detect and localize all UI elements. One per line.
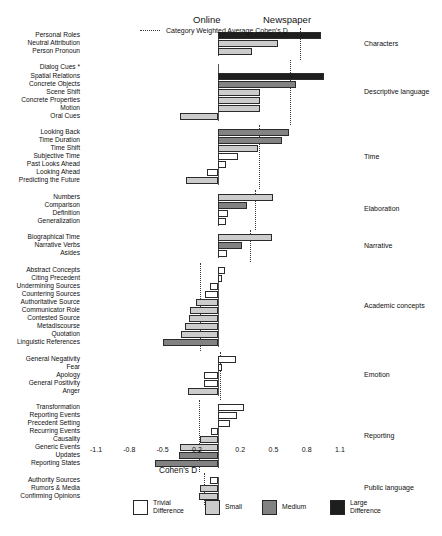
row-label: Reporting States: [0, 459, 80, 467]
x-tick-label: 1.1: [335, 446, 345, 453]
group-label: Academic concepts: [364, 302, 425, 309]
bar: [181, 331, 218, 338]
bar: [207, 169, 218, 176]
bar: [211, 428, 218, 435]
legend-swatch-small: [205, 500, 220, 515]
group-label: Reporting: [364, 432, 394, 439]
row-label: Authority Sources: [0, 476, 80, 484]
bar: [218, 404, 244, 411]
row-label: Concrete Objects: [0, 80, 80, 88]
row-label: Causality: [0, 435, 80, 443]
x-tick-label: -0.5: [157, 446, 169, 453]
row-label: Definition: [0, 209, 80, 217]
row-label: Metadiscourse: [0, 322, 80, 330]
row-label: Spatial Relations: [0, 72, 80, 80]
bar: [218, 412, 237, 419]
row-label: Biographical Time: [0, 233, 80, 241]
row-label: Contested Source: [0, 314, 80, 322]
bar: [218, 275, 222, 282]
row-label: Personal Roles: [0, 31, 80, 39]
bar: [218, 234, 272, 241]
row-label: Neutral Attribution: [0, 39, 80, 47]
bar: [218, 145, 258, 152]
legend-label-large: Large Difference: [350, 499, 381, 514]
bar: [218, 73, 324, 80]
chart-row: Linguistic References: [0, 339, 442, 347]
row-label: Apology: [0, 371, 80, 379]
bar: [218, 242, 242, 249]
bar: [188, 388, 218, 395]
column-header-online: Online: [193, 14, 220, 25]
bar: [218, 105, 260, 112]
x-tick-label: 0.2: [235, 446, 245, 453]
x-tick-label: 0.8: [302, 446, 312, 453]
bar: [189, 315, 218, 322]
bar: [163, 339, 218, 346]
group-label: Narrative: [364, 242, 392, 249]
legend-dotted-label: Category Weighted Average Cohen's D: [166, 27, 288, 34]
row-label: Citing Precedent: [0, 274, 80, 282]
row-label: Precedent Setting: [0, 419, 80, 427]
legend-item-small: Small: [205, 496, 242, 518]
row-label: Generalization: [0, 217, 80, 225]
chart-row: Person Pronoun: [0, 48, 442, 56]
bar: [218, 202, 247, 209]
dotted-line-sample: [140, 30, 160, 31]
group-label: Elaboration: [364, 205, 399, 212]
legend-label-small: Small: [225, 503, 242, 511]
legend-swatch-large: [330, 500, 345, 515]
row-label: Undermining Sources: [0, 282, 80, 290]
bar: [218, 420, 230, 427]
row-label: Countering Sources: [0, 290, 80, 298]
bar: [205, 291, 218, 298]
legend-item-trivial: Trivial Difference: [133, 496, 184, 518]
x-axis: -1.1-0.8-0.5-0.20.20.50.81.1: [0, 446, 442, 460]
row-label: Asides: [0, 249, 80, 257]
bar: [200, 485, 218, 492]
bar: [218, 153, 238, 160]
row-label: Concrete Properties: [0, 96, 80, 104]
cohens-d-chart: Online Newspaper Personal RolesNeutral A…: [0, 0, 442, 536]
bar: [218, 48, 252, 55]
bar: [218, 40, 278, 47]
bar: [218, 97, 260, 104]
group-label: Time: [364, 153, 379, 160]
x-tick-label: 0.5: [269, 446, 279, 453]
legend-swatch-medium: [262, 500, 277, 515]
row-label: Looking Ahead: [0, 168, 80, 176]
chart-row: Asides: [0, 250, 442, 258]
legend-label-medium: Medium: [282, 503, 306, 511]
bar: [180, 113, 218, 120]
group-label: Characters: [364, 40, 398, 47]
row-label: Subjective Time: [0, 152, 80, 160]
row-label: Comparison: [0, 201, 80, 209]
chart-row: Predicting the Future: [0, 177, 442, 185]
bar: [218, 89, 260, 96]
row-label: Anger: [0, 387, 80, 395]
legend-item-large: Large Difference: [330, 496, 381, 518]
bar: [204, 372, 218, 379]
group-label: Descriptive language: [364, 88, 429, 95]
chart-row: Oral Cues: [0, 113, 442, 121]
chart-row: Generalization: [0, 218, 442, 226]
row-label: Authoritative Source: [0, 298, 80, 306]
x-tick-label: -0.8: [123, 446, 135, 453]
legend-dotted-entry: Category Weighted Average Cohen's D: [140, 27, 288, 34]
row-label: Dialog Cues *: [0, 63, 80, 71]
row-label: Motion: [0, 104, 80, 112]
row-label: Person Pronoun: [0, 47, 80, 55]
legend: Trivial DifferenceSmallMediumLarge Diffe…: [0, 496, 442, 536]
bar: [218, 81, 296, 88]
group-label: Public language: [364, 484, 414, 491]
bar: [218, 210, 228, 217]
row-label: Numbers: [0, 193, 80, 201]
legend-swatch-trivial: [133, 500, 148, 515]
bar: [218, 137, 282, 144]
row-label: Scene Shift: [0, 88, 80, 96]
row-label: Time Shift: [0, 144, 80, 152]
bar: [200, 436, 218, 443]
group-label: Emotion: [364, 371, 390, 378]
bar: [218, 129, 289, 136]
x-tick-label: -1.1: [90, 446, 102, 453]
bar: [185, 323, 218, 330]
